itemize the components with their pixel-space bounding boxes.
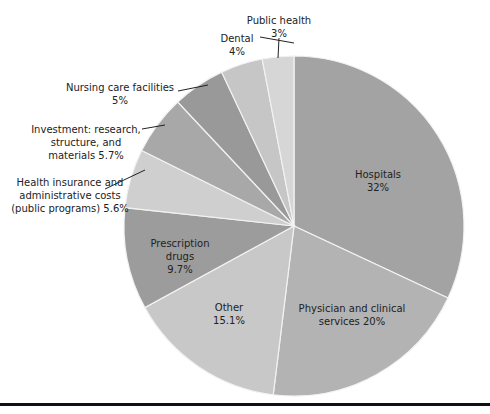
- slice-label: Public health3%: [247, 15, 311, 39]
- slice-label: Dental4%: [220, 33, 253, 57]
- slice-label: Health insurance andadministrative costs…: [11, 177, 129, 214]
- pie-chart: Hospitals32%Physician and clinicalservic…: [0, 0, 490, 414]
- slice-label: Nursing care facilities5%: [66, 82, 174, 106]
- slice-label: Investment: research,structure, andmater…: [31, 124, 141, 161]
- pie-slices: [124, 56, 464, 396]
- leader-line: [278, 38, 279, 58]
- bottom-rule: [0, 403, 490, 406]
